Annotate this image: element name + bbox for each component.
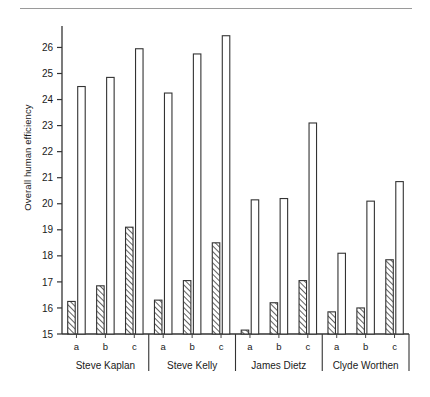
y-tick-label: 15 [42, 329, 54, 340]
y-tick-label: 18 [42, 250, 54, 261]
bar-open [338, 253, 346, 334]
bar-chart-plot: 151617181920212223242526 abcSteve Kaplan… [0, 0, 430, 397]
y-tick-label: 25 [42, 68, 54, 79]
bar-hatched [386, 260, 394, 334]
x-category-label: b [189, 341, 194, 352]
y-tick-label: 23 [42, 120, 54, 131]
bar-hatched [241, 330, 249, 334]
bar-hatched [183, 281, 191, 334]
y-tick-label: 26 [42, 42, 54, 53]
bar-hatched [212, 243, 220, 334]
x-category-label: c [219, 341, 224, 352]
x-category-label: b [363, 341, 368, 352]
y-tick-label: 16 [42, 303, 54, 314]
bar-hatched [357, 308, 365, 334]
x-group-label: Steve Kaplan [76, 360, 136, 371]
y-tick-label: 17 [42, 277, 54, 288]
x-group-label: Clyde Worthen [333, 360, 399, 371]
x-category-label: c [392, 341, 397, 352]
y-tick-label: 24 [42, 94, 54, 105]
bar-open [222, 36, 230, 334]
bar-open [107, 77, 115, 334]
y-tick-label: 20 [42, 198, 54, 209]
x-axis-group: abcSteve KaplanabcSteve KellyabcJames Di… [74, 334, 409, 371]
x-category-label: a [161, 341, 167, 352]
y-tick-label: 21 [42, 172, 54, 183]
x-group-label: Steve Kelly [167, 360, 217, 371]
bar-open [136, 49, 144, 334]
bar-hatched [97, 286, 105, 334]
x-category-label: a [334, 341, 340, 352]
x-group-label: James Dietz [251, 360, 306, 371]
x-category-label: c [132, 341, 137, 352]
bar-hatched [299, 281, 307, 334]
bar-hatched [154, 300, 162, 334]
x-category-label: a [247, 341, 253, 352]
bar-open [251, 200, 259, 334]
bar-hatched [68, 301, 76, 334]
bar-open [280, 199, 288, 334]
bar-hatched [126, 227, 134, 334]
bar-open [309, 123, 317, 334]
bar-hatched [328, 312, 336, 334]
y-tick-label: 19 [42, 224, 54, 235]
x-category-label: b [103, 341, 108, 352]
bar-hatched [270, 303, 278, 334]
x-category-label: a [74, 341, 80, 352]
bar-open [164, 93, 172, 334]
bar-open [193, 54, 201, 334]
bars-group [68, 36, 404, 334]
bar-open [367, 201, 375, 334]
chart-figure: Overall human efficiency 151617181920212… [0, 0, 430, 397]
x-category-label: c [305, 341, 310, 352]
x-category-label: b [276, 341, 281, 352]
bar-open [396, 182, 404, 334]
y-tick-label: 22 [42, 146, 54, 157]
bar-open [78, 87, 86, 334]
